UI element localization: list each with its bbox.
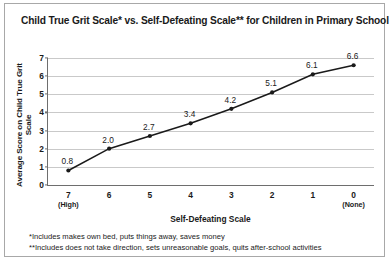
x-tick-label: 5 [148,190,153,200]
chart-title: Child True Grit Scale* vs. Self-Defeatin… [21,15,383,26]
chart-figure: Child True Grit Scale* vs. Self-Defeatin… [0,0,389,265]
chart-frame: Child True Grit Scale* vs. Self-Defeatin… [4,3,385,257]
data-series [48,58,374,185]
data-point-label: 6.1 [306,60,318,70]
x-tick-label: 4 [188,190,193,200]
data-point-marker [311,72,315,76]
data-point-marker [107,147,111,151]
footnote-double-asterisk: **Includes does not take direction, sets… [29,242,322,253]
data-point-label: 2.7 [143,122,155,132]
data-point-label: 3.4 [184,109,196,119]
data-point-label: 2.0 [102,135,114,145]
x-tick-label: 2 [270,190,275,200]
data-point-label: 4.2 [225,95,237,105]
y-tick-label: 1 [39,162,44,172]
data-point-label: 5.1 [265,78,277,88]
footnotes: *Includes makes own bed, puts things awa… [29,231,322,253]
y-tick-label: 2 [39,144,44,154]
plot-area: 012345677(High)6543210(None)0.82.02.73.4… [47,58,374,186]
x-tick-label: 1 [311,190,316,200]
series-line [68,65,353,170]
x-tick-label: 6 [107,190,112,200]
data-point-marker [189,121,193,125]
data-point-label: 6.6 [347,51,359,61]
x-axis-title: Self-Defeating Scale [47,214,374,224]
y-axis-title: Average Score on Child True Grit Scale [15,53,33,198]
x-tick-label: 3 [229,190,234,200]
x-tick-label: 7(High) [58,190,79,210]
data-point-marker [66,168,70,172]
x-tick-sublabel: (None) [342,200,365,210]
data-point-marker [229,107,233,111]
data-point-marker [270,90,274,94]
x-tick-sublabel: (High) [58,200,79,210]
data-point-marker [148,134,152,138]
y-tick-label: 6 [39,71,44,81]
y-tick-label: 5 [39,89,44,99]
data-point-label: 0.8 [62,156,74,166]
y-tick-label: 4 [39,107,44,117]
y-tick-label: 0 [39,180,44,190]
x-tick-label: 0(None) [342,190,365,210]
y-tick-label: 3 [39,126,44,136]
data-point-marker [352,63,356,67]
footnote-single-asterisk: *Includes makes own bed, puts things awa… [29,231,322,242]
y-tick-label: 7 [39,53,44,63]
